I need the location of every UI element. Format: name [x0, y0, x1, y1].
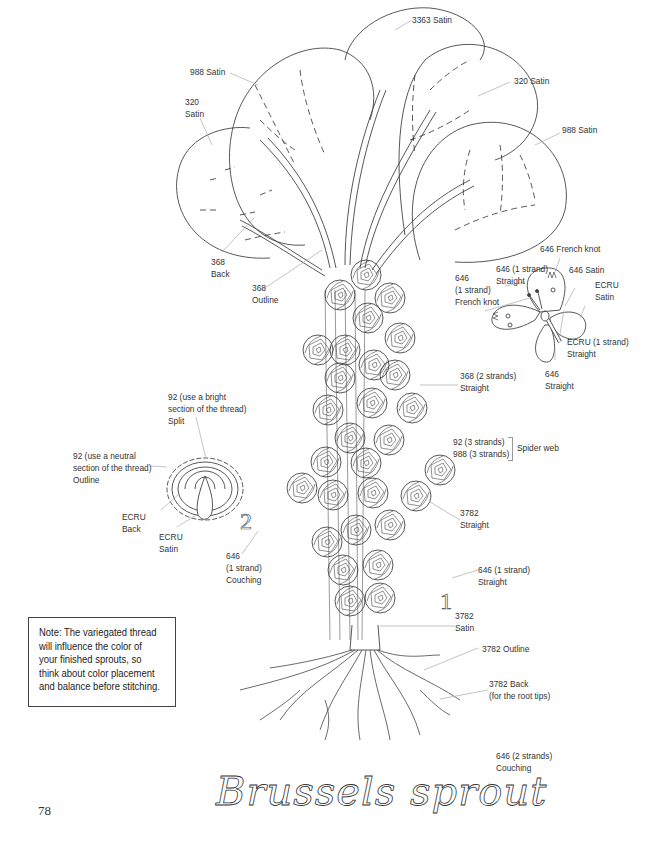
label-candle-outline: 92 (use a neutral section of the thread)… [73, 450, 152, 486]
label-butterfly-french-knot: 646 French knot [540, 243, 600, 255]
label-butterfly-ecru-satin: ECRU Satin [595, 279, 619, 303]
note-line: think about color placement [39, 667, 152, 681]
step-number-1: 1 [440, 588, 452, 615]
label-leaf-988-satin-top: 988 Satin [190, 66, 225, 78]
sprout-buds [287, 260, 455, 616]
note-box: Note: The variegated thread will influen… [28, 617, 176, 707]
label-butterfly-antenna-straight: 646 (1 strand) Straight [496, 263, 548, 287]
label-butterfly-646-straight: 646 Straight [545, 368, 574, 392]
leaf-right [412, 122, 566, 262]
candle-body [197, 476, 212, 519]
label-candle-ecru-back: ECRU Back [122, 511, 146, 535]
note-line: will influence the color of [39, 640, 152, 654]
spider-web-bracket [508, 437, 513, 461]
note-line: your finished sprouts, so [39, 653, 152, 667]
stalk-base [350, 625, 380, 650]
label-root-3782-back: 3782 Back (for the root tips) [489, 678, 550, 702]
leaf-far-left [177, 127, 270, 258]
label-sprout-3782-straight: 3782 Straight [460, 507, 489, 531]
label-butterfly-646-satin: 646 Satin [569, 264, 604, 276]
page-title: Brussels sprout [216, 768, 547, 814]
label-couching-646-1-strand: 646 (1 strand) Couching [226, 550, 262, 586]
page-number: 78 [38, 803, 51, 819]
label-vein-368-back: 368 Back [211, 256, 230, 280]
candle-motif [167, 458, 243, 520]
leaf-left [229, 48, 373, 245]
note-line: and balance before stitching. [39, 680, 152, 694]
label-stalk-368-straight: 368 (2 strands) Straight [460, 370, 516, 394]
label-spider-web-stitch: Spider web [517, 442, 559, 454]
label-leaf-320-satin-left: 320 Satin [185, 96, 204, 120]
label-root-3782-outline: 3782 Outline [482, 643, 529, 655]
label-candle-ecru-satin: ECRU Satin [159, 531, 183, 555]
roots [240, 650, 460, 740]
label-candle-split: 92 (use a bright section of the thread) … [168, 391, 247, 427]
label-base-3782-satin: 3782 Satin [455, 610, 474, 634]
label-leaf-320-satin-right: 320 Satin [514, 75, 549, 87]
stems [240, 90, 474, 276]
note-line: Note: The variegated thread [39, 626, 152, 640]
brussels-sprout-illustration [0, 0, 650, 848]
label-stem-368-outline: 368 Outline [252, 282, 278, 306]
label-butterfly-ecru-straight: ECRU (1 strand) Straight [567, 336, 629, 360]
step-number-2: 2 [240, 508, 252, 535]
label-leaf-988-satin-right: 988 Satin [562, 124, 597, 136]
label-646-straight: 646 (1 strand) Straight [478, 564, 530, 588]
label-leaf-3363-satin: 3363 Satin [412, 14, 452, 26]
label-spider-web-threads: 92 (3 strands) 988 (3 strands) [453, 436, 509, 460]
label-butterfly-french-knot-left: 646 (1 strand) French knot [455, 272, 499, 308]
